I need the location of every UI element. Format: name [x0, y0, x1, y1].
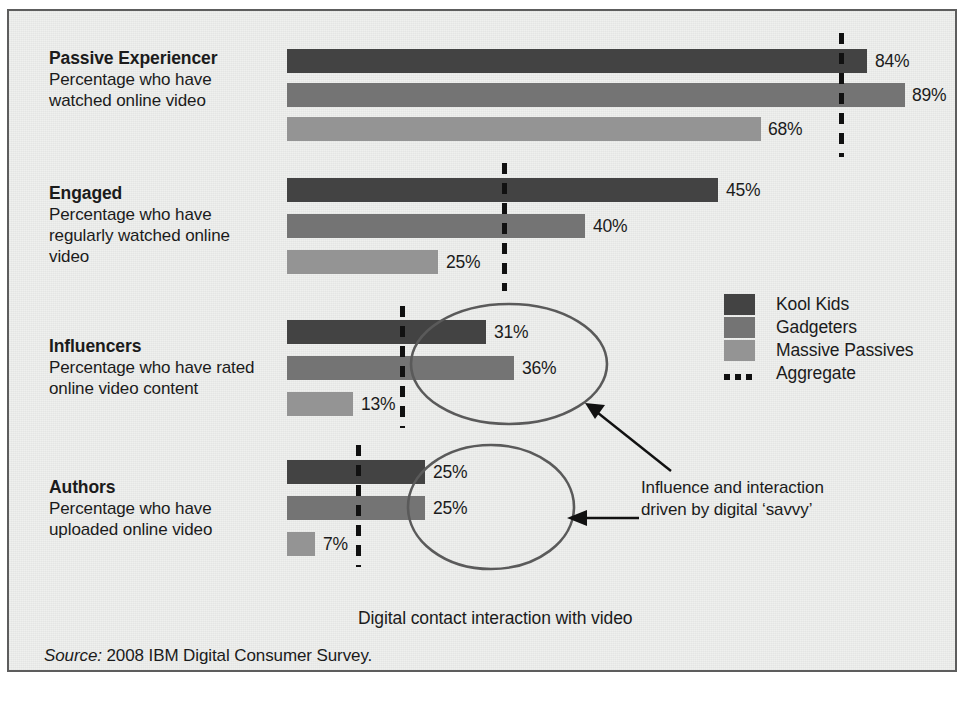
legend-label-aggregate: Aggregate — [776, 362, 856, 384]
legend-swatch-massive-passives — [724, 340, 755, 361]
bar-passive-kool-kids[interactable] — [287, 49, 867, 73]
group-desc-line-2: regularly watched online — [49, 225, 309, 246]
bar-value-passive-gadgeters: 89% — [912, 83, 946, 107]
page-bleed-text — [0, 689, 979, 701]
bar-value-authors-kool-kids: 25% — [433, 460, 467, 484]
bar-value-influencers-massive-passives: 13% — [361, 392, 395, 416]
group-desc-line-1: Percentage who have — [49, 498, 309, 519]
group-label-influencers: Influencers Percentage who have rated on… — [49, 336, 309, 399]
bar-passive-massive-passives[interactable] — [287, 117, 761, 141]
aggregate-line-engaged — [502, 163, 507, 291]
group-desc-line-1: Percentage who have — [49, 69, 309, 90]
bar-value-passive-massive-passives: 68% — [768, 117, 802, 141]
bar-value-authors-gadgeters: 25% — [433, 496, 467, 520]
figure-frame: Passive Experiencer Percentage who have … — [7, 9, 957, 672]
group-title: Passive Experiencer — [49, 48, 309, 69]
group-desc-line-1: Percentage who have — [49, 204, 309, 225]
group-title: Authors — [49, 477, 309, 498]
legend-label-massive-passives: Massive Passives — [776, 339, 913, 361]
arrow-to-influencers — [585, 403, 671, 471]
group-desc-line-3: video — [49, 246, 309, 267]
bar-engaged-massive-passives[interactable] — [287, 250, 438, 274]
chart-plot-area: Passive Experiencer Percentage who have … — [9, 11, 959, 674]
figure-panel: Passive Experiencer Percentage who have … — [0, 0, 979, 701]
annotation-line-1: Influence and interaction — [641, 477, 824, 499]
group-title: Engaged — [49, 183, 309, 204]
legend-swatch-kool-kids — [724, 294, 755, 315]
group-desc-line-2: watched online video — [49, 90, 309, 111]
group-label-passive-experiencer: Passive Experiencer Percentage who have … — [49, 48, 309, 111]
chart-source: Source: 2008 IBM Digital Consumer Survey… — [44, 646, 372, 666]
arrow-to-authors — [567, 510, 639, 526]
bar-value-influencers-kool-kids: 31% — [494, 320, 528, 344]
bar-influencers-kool-kids[interactable] — [287, 320, 486, 344]
legend-label-gadgeters: Gadgeters — [776, 316, 857, 338]
aggregate-line-authors — [356, 445, 361, 567]
bar-influencers-massive-passives[interactable] — [287, 392, 353, 416]
bar-value-authors-massive-passives: 7% — [323, 532, 348, 556]
group-label-engaged: Engaged Percentage who have regularly wa… — [49, 183, 309, 267]
group-desc-line-1: Percentage who have rated — [49, 357, 309, 378]
bar-engaged-gadgeters[interactable] — [287, 214, 585, 238]
legend-swatch-gadgeters — [724, 317, 755, 338]
source-rest: 2008 IBM Digital Consumer Survey. — [102, 646, 372, 665]
bar-authors-massive-passives[interactable] — [287, 532, 315, 556]
group-title: Influencers — [49, 336, 309, 357]
aggregate-line-passive-experiencer — [839, 33, 844, 157]
legend-label-kool-kids: Kool Kids — [776, 293, 849, 315]
bar-value-engaged-massive-passives: 25% — [446, 250, 480, 274]
annotation-line-2: driven by digital ‘savvy’ — [641, 499, 824, 521]
bar-value-engaged-gadgeters: 40% — [593, 214, 627, 238]
bar-passive-gadgeters[interactable] — [287, 83, 905, 107]
bar-value-passive-kool-kids: 84% — [875, 49, 909, 73]
annotation-callout: Influence and interaction driven by digi… — [641, 477, 824, 521]
group-desc-line-2: online video content — [49, 378, 309, 399]
source-lead: Source: — [44, 646, 102, 665]
group-desc-line-2: uploaded online video — [49, 519, 309, 540]
group-label-authors: Authors Percentage who have uploaded onl… — [49, 477, 309, 540]
chart-caption: Digital contact interaction with video — [358, 608, 632, 629]
bar-value-influencers-gadgeters: 36% — [522, 356, 556, 380]
bar-value-engaged-kool-kids: 45% — [726, 178, 760, 202]
aggregate-line-influencers — [400, 306, 405, 428]
legend-swatch-aggregate — [724, 374, 755, 380]
